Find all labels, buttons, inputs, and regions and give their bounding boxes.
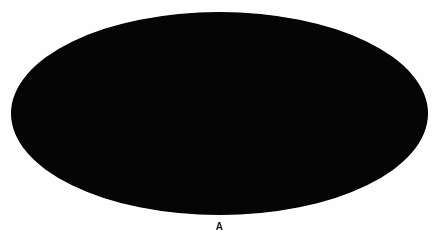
- panel-label: A: [0, 221, 439, 233]
- all-sky-map-ellipse-shell: [11, 12, 428, 215]
- all-sky-map: [11, 12, 428, 215]
- figure-panel: A: [0, 0, 439, 241]
